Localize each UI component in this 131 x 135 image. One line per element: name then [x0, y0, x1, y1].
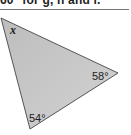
angle-label-x: x — [9, 23, 16, 37]
angle-label-58: 58° — [92, 70, 109, 82]
triangle-diagram: x 58° 54° — [0, 0, 131, 135]
angle-label-54: 54° — [29, 112, 46, 124]
